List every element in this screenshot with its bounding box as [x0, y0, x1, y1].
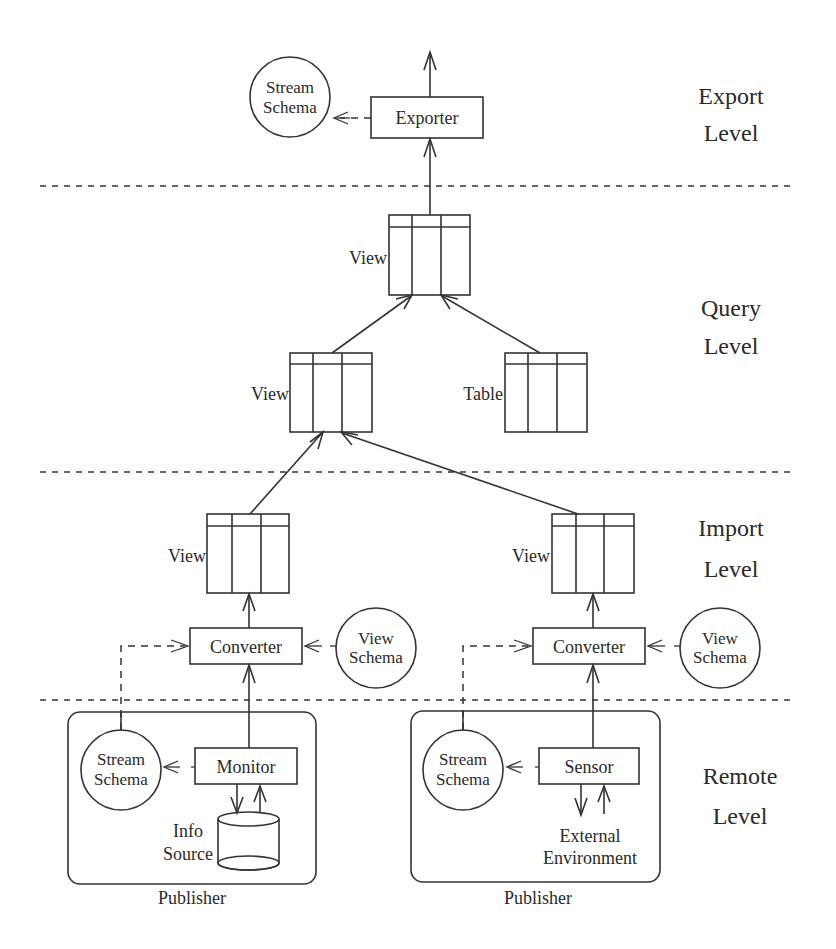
level-label-export-1: Export [698, 83, 764, 109]
query-table-label: Table [463, 384, 503, 404]
import-left-view-node [207, 514, 289, 593]
left-view-schema-label-1: View [358, 629, 395, 648]
import-right-view-label: View [512, 546, 550, 566]
external-environment-label-1: External [560, 826, 621, 846]
left-publisher-stream-schema-label-1: Stream [97, 750, 145, 769]
left-view-schema-label-2: Schema [349, 648, 403, 667]
level-label-query-1: Query [701, 295, 761, 321]
right-publisher: Publisher Stream Schema Sensor External … [411, 711, 660, 908]
table-to-top-view-edge [442, 296, 540, 353]
right-publisher-stream-schema-label-2: Schema [436, 770, 490, 789]
right-converter-label: Converter [553, 637, 625, 657]
export-level: Exporter Stream Schema [250, 52, 483, 215]
left-converter-label: Converter [210, 637, 282, 657]
import-right-view-to-query-view-edge [342, 433, 578, 514]
external-environment-label-2: Environment [543, 848, 637, 868]
level-label-import-2: Level [704, 556, 759, 582]
sensor-label: Sensor [565, 757, 614, 777]
query-mid-view-node [290, 353, 372, 432]
info-source-label-2: Source [163, 844, 213, 864]
import-left-view-label: View [168, 546, 206, 566]
right-publisher-label: Publisher [504, 888, 572, 908]
level-label-remote-2: Level [713, 803, 768, 829]
architecture-diagram: Export Level Query Level Import Level Re… [0, 0, 836, 949]
level-label-export-2: Level [704, 120, 759, 146]
export-stream-schema-label-2: Schema [263, 98, 317, 117]
info-source-cylinder [218, 812, 279, 870]
level-label-import-1: Import [698, 515, 764, 541]
query-mid-view-label: View [251, 384, 289, 404]
left-publisher: Publisher Stream Schema Monitor Info Sou… [68, 712, 316, 908]
level-label-remote-1: Remote [703, 763, 778, 789]
left-stream-schema-to-converter-edge [121, 646, 185, 730]
right-view-schema-label-1: View [702, 629, 739, 648]
right-view-schema-label-2: Schema [693, 648, 747, 667]
export-stream-schema-node [250, 57, 330, 137]
remote-level: Publisher Stream Schema Monitor Info Sou… [68, 711, 660, 908]
left-publisher-stream-schema-label-2: Schema [94, 770, 148, 789]
export-stream-schema-label-1: Stream [266, 78, 314, 97]
left-publisher-label: Publisher [158, 888, 226, 908]
query-top-view-node [389, 215, 470, 295]
mid-view-to-top-view-edge [332, 296, 411, 353]
query-top-view-label: View [349, 248, 387, 268]
monitor-label: Monitor [216, 757, 275, 777]
query-level: View View Table [251, 215, 587, 432]
query-table-node [505, 353, 587, 432]
level-labels: Export Level Query Level Import Level Re… [698, 83, 777, 829]
right-publisher-stream-schema-label-1: Stream [439, 750, 487, 769]
import-right-view-node [552, 514, 634, 593]
info-source-label-1: Info [173, 821, 203, 841]
arrowhead-icon [341, 432, 358, 445]
exporter-label: Exporter [396, 108, 459, 128]
right-stream-schema-to-converter-edge [463, 646, 528, 730]
level-label-query-2: Level [704, 333, 759, 359]
import-left-view-to-query-view-edge [250, 433, 322, 514]
